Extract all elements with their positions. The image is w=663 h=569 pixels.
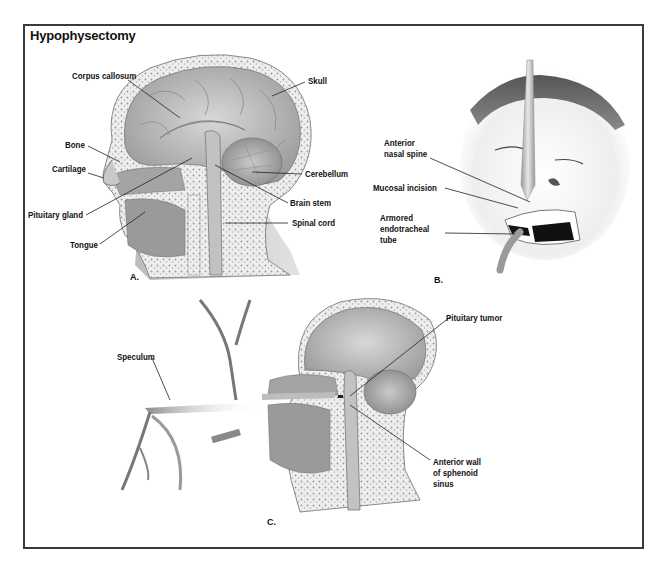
- panel-c-caption: C.: [267, 517, 276, 527]
- label-line: Armored: [380, 213, 429, 224]
- label-armored-endotracheal-tube: Armored endotracheal tube: [380, 213, 429, 246]
- label-pituitary-gland: Pituitary gland: [28, 210, 83, 221]
- label-tongue: Tongue: [70, 240, 98, 251]
- label-line: of sphenoid: [433, 468, 481, 479]
- label-cerebellum: Cerebellum: [305, 169, 348, 180]
- label-cartilage: Cartilage: [52, 164, 86, 175]
- label-anterior-wall-sphenoid-sinus: Anterior wall of sphenoid sinus: [433, 457, 481, 490]
- label-bone: Bone: [65, 140, 85, 151]
- label-speculum: Speculum: [117, 352, 155, 363]
- label-line: nasal spine: [384, 149, 427, 160]
- label-pituitary-tumor: Pituitary tumor: [446, 313, 502, 324]
- label-line: endotracheal: [380, 224, 429, 235]
- label-corpus-callosum: Corpus callosum: [72, 71, 136, 82]
- panel-a-caption: A.: [130, 272, 139, 282]
- label-skull: Skull: [308, 76, 327, 87]
- panel-c-section: [268, 299, 436, 512]
- panel-b-caption: B.: [434, 275, 443, 285]
- label-anterior-nasal-spine: Anterior nasal spine: [384, 138, 427, 160]
- label-line: Anterior wall: [433, 457, 481, 468]
- illustration-canvas: [0, 0, 663, 569]
- label-spinal-cord: Spinal cord: [292, 218, 335, 229]
- label-line: Anterior: [384, 138, 427, 149]
- panel-a-head-section: [103, 55, 311, 280]
- label-brain-stem: Brain stem: [290, 198, 331, 209]
- panel-b-face: [460, 60, 630, 270]
- label-line: sinus: [433, 479, 481, 490]
- label-line: tube: [380, 235, 429, 246]
- label-mucosal-incision: Mucosal incision: [373, 183, 437, 194]
